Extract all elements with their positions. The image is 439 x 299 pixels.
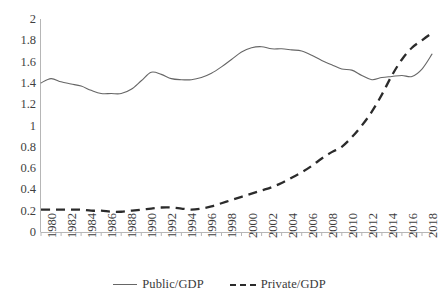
x-axis-tick-label: 1982 xyxy=(66,213,78,238)
x-axis-tick-label: 1996 xyxy=(206,213,218,238)
legend-label-private-gdp: Private/GDP xyxy=(261,277,326,292)
x-axis-tick-label: 1998 xyxy=(226,213,238,238)
x-axis-tick-label: 2012 xyxy=(367,213,379,238)
x-axis-tick-label: 2008 xyxy=(327,213,339,238)
legend-swatch-dashed-icon xyxy=(230,284,256,286)
legend-label-public-gdp: Public/GDP xyxy=(142,277,203,292)
x-axis-tick-label: 2018 xyxy=(427,213,439,238)
x-axis-tick-label: 1988 xyxy=(126,213,138,238)
legend-item-private-gdp: Private/GDP xyxy=(230,277,326,292)
x-axis-tick-label: 1986 xyxy=(106,213,118,238)
x-axis-tick-label: 1992 xyxy=(166,213,178,238)
x-axis-tick-label: 1984 xyxy=(86,213,98,238)
legend-swatch-solid-icon xyxy=(113,284,137,285)
x-axis-tick-label: 1980 xyxy=(46,213,58,238)
chart-legend: Public/GDP Private/GDP xyxy=(0,277,439,292)
x-axis-tick-label: 2000 xyxy=(247,213,259,238)
x-axis-tick-label: 2002 xyxy=(267,213,279,238)
x-axis-tick-label: 2014 xyxy=(387,213,399,238)
x-axis-labels: 1980198219841986198819901992199419961998… xyxy=(0,0,439,299)
x-axis-tick-label: 1994 xyxy=(186,213,198,238)
x-axis-tick-label: 2006 xyxy=(307,213,319,238)
x-axis-tick-label: 2004 xyxy=(287,213,299,238)
x-axis-tick-label: 2010 xyxy=(347,213,359,238)
legend-item-public-gdp: Public/GDP xyxy=(113,277,203,292)
chart-container: 00.20.40.60.811.21.41.61.82 198019821984… xyxy=(0,0,439,299)
x-axis-tick-label: 2016 xyxy=(407,213,419,238)
x-axis-tick-label: 1990 xyxy=(146,213,158,238)
